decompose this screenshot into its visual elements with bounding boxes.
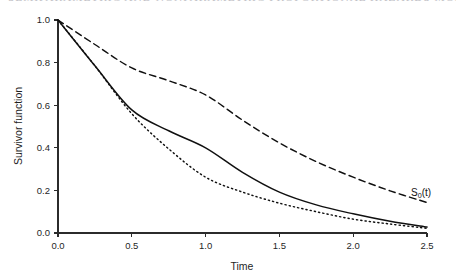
x-axis-title: Time: [231, 260, 254, 272]
x-tick-label: 2.5: [420, 240, 433, 251]
y-tick-label: 0.6: [37, 100, 50, 111]
x-tick-label: 0.0: [51, 240, 64, 251]
y-tick-label: 0.8: [37, 57, 50, 68]
series-path-dotted-curve: [58, 20, 427, 228]
plot-area: 0.00.20.40.60.81.0 0.00.51.01.52.02.5 Su…: [0, 0, 456, 276]
y-axis-ticks: 0.00.20.40.60.81.0: [37, 14, 58, 238]
x-tick-label: 1.0: [199, 240, 212, 251]
y-tick-label: 0.0: [37, 227, 50, 238]
x-tick-label: 0.5: [125, 240, 138, 251]
y-tick-label: 1.0: [37, 14, 50, 25]
y-tick-label: 0.2: [37, 185, 50, 196]
s0-label-tail: (t): [422, 187, 431, 198]
series-group: [58, 20, 427, 228]
axes-group: [58, 20, 427, 233]
series-path-s0-t: [58, 20, 427, 203]
x-tick-label: 2.0: [347, 240, 360, 251]
x-axis-ticks: 0.00.51.01.52.02.5: [51, 233, 433, 251]
series-path-solid-curve: [58, 20, 427, 227]
x-tick-label: 1.5: [273, 240, 286, 251]
y-tick-label: 0.4: [37, 142, 50, 153]
survivor-function-chart-figure: SEMIPARAMETRIC AND NONPARAMETRIC PROPORT…: [0, 0, 456, 276]
y-axis-title: Survivor function: [12, 87, 24, 165]
